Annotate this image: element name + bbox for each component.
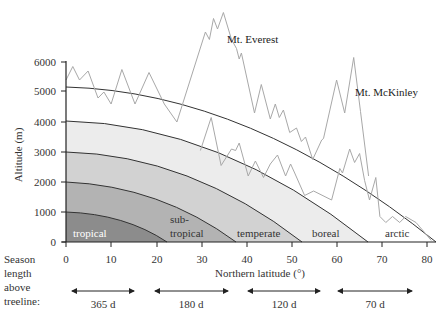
xtick-50: 50 — [287, 253, 299, 265]
ytick-1000: 1000 — [34, 206, 57, 218]
x-tick-labels: 0 10 20 30 40 50 60 70 80 — [63, 253, 433, 265]
xtick-10: 10 — [106, 253, 118, 265]
zone-label-tropical: tropical — [73, 227, 107, 239]
zone-label-arctic: arctic — [385, 227, 410, 239]
svg-text:Season: Season — [4, 253, 36, 265]
season-values: 365 d 180 d 120 d 70 d — [91, 298, 386, 310]
ytick-6000: 6000 — [34, 56, 57, 68]
xtick-0: 0 — [63, 253, 69, 265]
zone-label-boreal: boreal — [312, 227, 339, 239]
xtick-70: 70 — [377, 253, 389, 265]
annotation-mt-mckinley: Mt. McKinley — [355, 86, 418, 98]
season-value-120: 120 d — [272, 298, 297, 310]
season-value-70: 70 d — [365, 298, 385, 310]
zone-label-subtropical-2: tropical — [170, 227, 204, 239]
season-value-365: 365 d — [91, 298, 116, 310]
zone-label-temperate: temperate — [237, 227, 280, 239]
ytick-0: 0 — [51, 236, 57, 248]
xtick-60: 60 — [332, 253, 344, 265]
xtick-20: 20 — [152, 253, 164, 265]
svg-text:above: above — [4, 281, 30, 293]
annotation-mt-everest: Mt. Everest — [227, 33, 278, 45]
xtick-80: 80 — [422, 253, 434, 265]
ytick-2000: 2000 — [34, 176, 57, 188]
y-tick-labels: 0 1000 2000 3000 4000 5000 6000 — [34, 56, 57, 248]
svg-text:treeline:: treeline: — [4, 295, 40, 307]
y-ticks — [61, 62, 66, 242]
ytick-5000: 5000 — [34, 85, 57, 97]
season-length-label: Season length above treeline: — [4, 253, 40, 307]
ytick-3000: 3000 — [34, 146, 57, 158]
zone-label-subtropical-1: sub- — [170, 213, 189, 225]
svg-text:length: length — [4, 267, 32, 279]
x-ticks — [66, 242, 427, 247]
xtick-40: 40 — [242, 253, 254, 265]
xtick-30: 30 — [197, 253, 209, 265]
altitude-latitude-chart: 0 1000 2000 3000 4000 5000 6000 Altitude… — [0, 0, 446, 318]
zone-bands — [66, 87, 436, 242]
x-axis-label: Northern latitude (°) — [215, 267, 305, 280]
ytick-4000: 4000 — [34, 116, 57, 128]
season-value-180: 180 d — [179, 298, 204, 310]
y-axis-label: Altitude (m) — [12, 127, 25, 182]
